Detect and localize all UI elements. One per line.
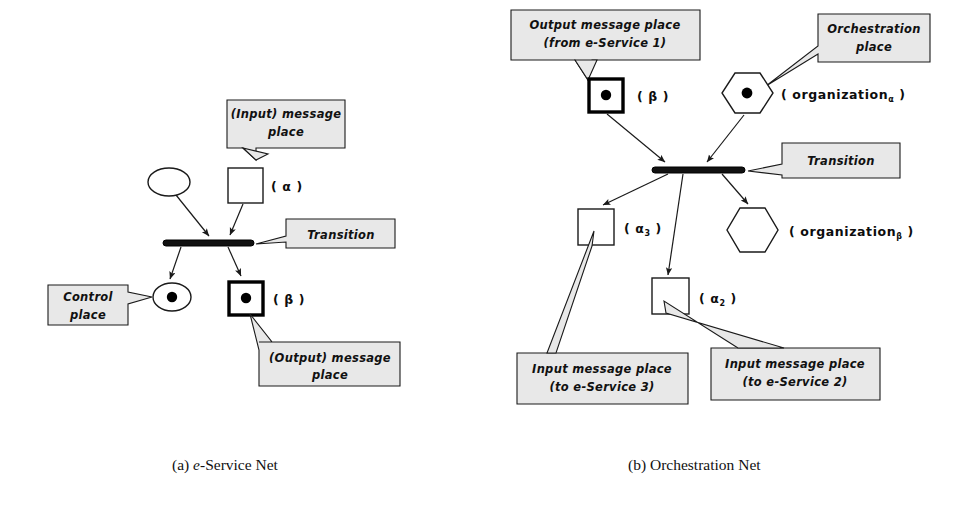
alpha3-label: ( α3 ) bbox=[624, 221, 662, 238]
petri-net-figure: (Input) message place ( α ) Transition bbox=[0, 0, 960, 516]
token bbox=[167, 292, 177, 302]
token bbox=[742, 88, 753, 99]
arc-transition-to-output bbox=[228, 247, 241, 276]
caption-panel-b: (b) Orchestration Net bbox=[628, 456, 761, 474]
alpha2-label: ( α2 ) bbox=[699, 291, 737, 308]
organization-beta-label: ( organizationβ ) bbox=[789, 224, 914, 241]
input-message-place-square bbox=[228, 168, 263, 203]
callout-orchestration-place-line2: place bbox=[855, 40, 892, 54]
transition-bar-b bbox=[652, 167, 745, 173]
output-message-place-square-b bbox=[589, 79, 623, 112]
callout-input-message-place-service2-line1: Input message place bbox=[725, 357, 865, 371]
token bbox=[241, 293, 251, 303]
callout-input-message-place-service2: Input message place (to e-Service 2) bbox=[664, 301, 880, 400]
alpha-label: ( α ) bbox=[271, 179, 303, 194]
arc-transition-to-alpha2 bbox=[668, 174, 683, 275]
panel-b-diagram: Output message place (from e-Service 1) … bbox=[511, 10, 930, 404]
caption-panel-a: (a) e-Service Net bbox=[172, 456, 279, 474]
output-message-place-square bbox=[229, 282, 263, 315]
beta-label: ( β ) bbox=[273, 292, 305, 307]
control-place-empty bbox=[148, 168, 190, 196]
control-place-marked bbox=[153, 283, 191, 311]
callout-input-message-place-service3-line1: Input message place bbox=[532, 362, 672, 376]
callout-transition-b: Transition bbox=[748, 143, 900, 178]
callout-output-message-place-line1: (Output) message bbox=[269, 351, 391, 365]
callout-transition-line1: Transition bbox=[307, 228, 375, 242]
arc-control-to-transition bbox=[176, 195, 209, 236]
arc-transition-to-control bbox=[170, 247, 181, 279]
callout-output-message-place-b-line2: (from e-Service 1) bbox=[544, 36, 667, 50]
callout-output-message-place-b-line1: Output message place bbox=[529, 18, 680, 32]
callout-input-message-place-line1: (Input) message bbox=[231, 107, 342, 121]
figure-root: (Input) message place ( α ) Transition bbox=[0, 0, 960, 516]
callout-control-place: Control place bbox=[48, 285, 152, 325]
input-message-place-square-alpha3 bbox=[578, 209, 614, 245]
callout-output-message-place: (Output) message place bbox=[250, 314, 400, 386]
callout-output-message-place-line2: place bbox=[311, 368, 348, 382]
arc-beta-to-transition bbox=[607, 114, 665, 162]
organization-beta-hexagon bbox=[727, 208, 778, 252]
panel-a-diagram: (Input) message place ( α ) Transition bbox=[48, 100, 400, 386]
callout-transition-b-line1: Transition bbox=[807, 154, 875, 168]
transition-bar bbox=[163, 240, 254, 246]
callout-orchestration-place: Orchestration place bbox=[766, 14, 930, 86]
callout-control-place-line1: Control bbox=[63, 290, 113, 304]
callout-input-message-place-line2: place bbox=[267, 125, 304, 139]
orchestration-place-hexagon bbox=[722, 73, 773, 113]
arc-transition-to-organization-beta bbox=[722, 174, 748, 204]
callout-input-message-place-service3: Input message place (to e-Service 3) bbox=[517, 231, 688, 404]
callout-control-place-line2: place bbox=[69, 308, 106, 322]
callout-input-message-place: (Input) message place bbox=[227, 100, 345, 160]
organization-alpha-label: ( organizationα ) bbox=[781, 87, 906, 104]
callout-transition: Transition bbox=[256, 219, 395, 248]
callout-input-message-place-service2-line2: (to e-Service 2) bbox=[742, 375, 847, 389]
arc-transition-to-alpha3 bbox=[603, 174, 668, 205]
arc-orchestration-to-transition bbox=[707, 115, 744, 162]
token bbox=[601, 90, 611, 100]
arc-input-to-transition bbox=[230, 204, 243, 235]
beta-label-b: ( β ) bbox=[637, 89, 669, 104]
callout-output-message-place-b: Output message place (from e-Service 1) bbox=[511, 10, 700, 80]
callout-input-message-place-service3-line2: (to e-Service 3) bbox=[549, 380, 654, 394]
callout-orchestration-place-line1: Orchestration bbox=[827, 22, 920, 36]
